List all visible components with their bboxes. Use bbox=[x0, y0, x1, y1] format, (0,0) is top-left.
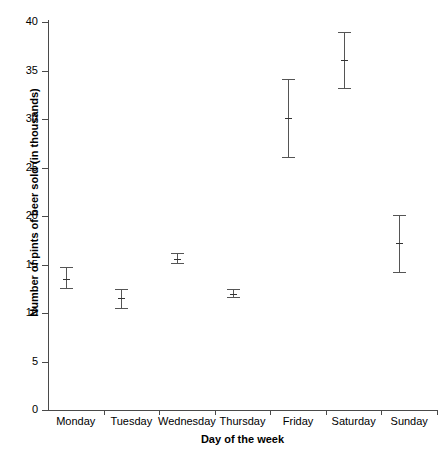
error-bar-cap-lower bbox=[227, 297, 240, 298]
y-axis-title-label: Number of pints of beer sold (in thousan… bbox=[28, 73, 41, 333]
x-tick-label: Sunday bbox=[377, 415, 441, 428]
error-bar-cap-upper bbox=[282, 79, 295, 80]
x-tick-label: Monday bbox=[44, 415, 108, 428]
data-point-error-bar bbox=[282, 79, 295, 157]
x-tick-label: Thursday bbox=[211, 415, 275, 428]
error-bar-cap-lower bbox=[282, 157, 295, 158]
y-axis-line bbox=[48, 20, 49, 411]
mean-marker bbox=[396, 243, 403, 244]
error-bar-line bbox=[66, 267, 67, 287]
y-axis-title: Number of pints of beer sold (in thousan… bbox=[28, 73, 41, 333]
mean-marker bbox=[63, 279, 70, 280]
mean-marker bbox=[118, 298, 125, 299]
y-tick-mark bbox=[42, 168, 48, 169]
data-point-error-bar bbox=[115, 289, 128, 308]
data-point-error-bar bbox=[171, 253, 184, 263]
error-bar-cap-upper bbox=[171, 253, 184, 254]
error-bar-cap-upper bbox=[393, 215, 406, 216]
y-tick-mark bbox=[42, 265, 48, 266]
mean-marker bbox=[174, 259, 181, 260]
x-tick-label: Friday bbox=[266, 415, 330, 428]
mean-marker bbox=[230, 294, 237, 295]
y-tick-mark bbox=[42, 410, 48, 411]
y-tick-mark bbox=[42, 313, 48, 314]
y-tick-mark bbox=[42, 71, 48, 72]
data-point-error-bar bbox=[393, 215, 406, 272]
x-axis-line bbox=[48, 410, 437, 411]
data-point-error-bar bbox=[227, 289, 240, 298]
error-bar-cap-lower bbox=[393, 272, 406, 273]
y-tick-label: 0 bbox=[0, 404, 38, 415]
y-tick-mark bbox=[42, 362, 48, 363]
y-tick-mark bbox=[42, 22, 48, 23]
error-bar-cap-upper bbox=[115, 289, 128, 290]
x-axis-title: Day of the week bbox=[48, 433, 437, 446]
y-tick-label: 40 bbox=[0, 16, 38, 27]
error-bar-cap-lower bbox=[171, 263, 184, 264]
error-bar-cap-lower bbox=[115, 308, 128, 309]
x-tick-label: Tuesday bbox=[100, 415, 164, 428]
error-bar-cap-upper bbox=[338, 32, 351, 33]
mean-marker bbox=[285, 118, 292, 119]
mean-marker bbox=[341, 60, 348, 61]
y-tick-mark bbox=[42, 119, 48, 120]
data-point-error-bar bbox=[338, 32, 351, 88]
x-tick-label: Saturday bbox=[322, 415, 386, 428]
data-point-error-bar bbox=[60, 267, 73, 287]
error-bar-cap-lower bbox=[338, 88, 351, 89]
error-bar-chart: 0510152025303540 MondayTuesdayWednesdayT… bbox=[0, 0, 445, 463]
error-bar-cap-upper bbox=[60, 267, 73, 268]
error-bar-cap-upper bbox=[227, 289, 240, 290]
y-tick-label: 5 bbox=[0, 356, 38, 367]
error-bar-cap-lower bbox=[60, 288, 73, 289]
x-tick-label: Wednesday bbox=[155, 415, 219, 428]
y-tick-mark bbox=[42, 216, 48, 217]
